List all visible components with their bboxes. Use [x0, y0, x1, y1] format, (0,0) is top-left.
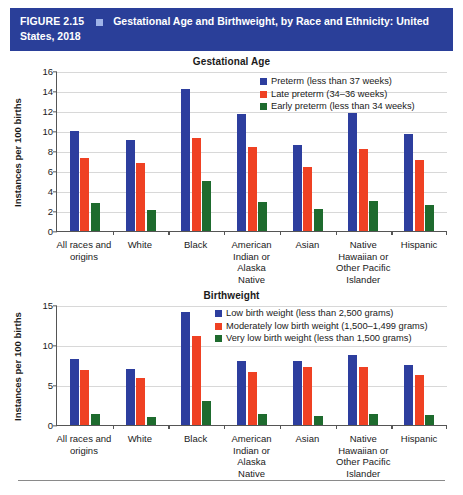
y-axis-label-0: Instances per 100 births: [12, 98, 23, 207]
bar: [404, 365, 413, 425]
x-axis-category-label: Hispanic: [391, 428, 447, 479]
legend-swatch-icon: [215, 335, 222, 342]
x-axis-labels-1: All races and originsWhiteBlackAmerican …: [56, 428, 447, 479]
y-axis-tick-mark: [53, 425, 57, 426]
legend-item: Early preterm (less than 34 weeks): [260, 101, 415, 113]
bar-group: [57, 306, 113, 425]
bar: [248, 147, 257, 231]
bar: [359, 149, 368, 231]
legend-label: Low birth weight (less than 2,500 grams): [226, 308, 393, 320]
x-axis-category-label: All races and origins: [56, 234, 112, 285]
bar: [314, 209, 323, 231]
legend-swatch-icon: [215, 310, 222, 317]
bar: [348, 113, 357, 231]
bar: [192, 138, 201, 231]
bar: [303, 167, 312, 231]
bar: [314, 416, 323, 425]
bar-group: [113, 306, 169, 425]
legend-item: Moderately low birth weight (1,500–1,499…: [215, 321, 428, 333]
legend-item: Very low birth weight (less than 1,500 g…: [215, 333, 428, 345]
legend-item: Preterm (less than 37 weeks): [260, 76, 415, 88]
y-axis-tick-label: 6: [31, 167, 53, 177]
y-axis-tick-label: 14: [31, 87, 53, 97]
y-axis-tick-label: 4: [31, 187, 53, 197]
bar: [248, 372, 257, 425]
chart-panel-birthweight: Birthweight Instances per 100 births 051…: [10, 290, 453, 484]
legend-item: Late preterm (34–36 weeks): [260, 89, 415, 101]
bar: [136, 378, 145, 425]
legend-1: Low birth weight (less than 2,500 grams)…: [215, 308, 428, 346]
legend-swatch-icon: [260, 103, 267, 110]
bar: [91, 203, 100, 231]
legend-swatch-icon: [260, 78, 267, 85]
x-axis-category-label: Black: [168, 234, 224, 285]
bar: [369, 201, 378, 231]
x-axis-category-label: Asian: [279, 428, 335, 479]
bar: [415, 160, 424, 231]
bar: [359, 367, 368, 425]
bar: [425, 415, 434, 425]
x-axis-category-label: Black: [168, 428, 224, 479]
footer-divider: [18, 480, 445, 481]
plot-area-1: Instances per 100 births 051015 All race…: [10, 304, 453, 484]
x-axis-category-label: American Indian or Alaska Native: [224, 234, 280, 285]
y-axis-tick-label: 2: [31, 207, 53, 217]
bar: [258, 414, 267, 425]
y-axis-tick-label: 8: [31, 147, 53, 157]
legend-item: Low birth weight (less than 2,500 grams): [215, 308, 428, 320]
x-axis-category-label: Hispanic: [391, 234, 447, 285]
y-axis-tick-label: 16: [31, 67, 53, 77]
y-axis-tick-label: 12: [31, 107, 53, 117]
x-axis-category-label: Native Hawaiian or Other Pacific Islande…: [335, 234, 391, 285]
bar: [192, 336, 201, 425]
x-axis-category-label: Native Hawaiian or Other Pacific Islande…: [335, 428, 391, 479]
bar: [237, 361, 246, 425]
header-square-icon: [96, 19, 103, 26]
chart-title-0: Gestational Age: [10, 56, 453, 70]
bar: [202, 181, 211, 231]
x-axis-labels-0: All races and originsWhiteBlackAmerican …: [56, 234, 447, 285]
bar: [293, 361, 302, 425]
bar-group: [57, 72, 113, 231]
legend-0: Preterm (less than 37 weeks)Late preterm…: [260, 76, 415, 114]
legend-label: Moderately low birth weight (1,500–1,499…: [226, 321, 428, 333]
figure-header: FIGURE 2.15Gestational Age and Birthweig…: [10, 8, 453, 51]
x-axis-category-label: Asian: [279, 234, 335, 285]
bar: [293, 145, 302, 231]
bar: [147, 210, 156, 231]
x-axis-category-label: American Indian or Alaska Native: [224, 428, 280, 479]
legend-label: Early preterm (less than 34 weeks): [271, 101, 415, 113]
bar: [80, 158, 89, 231]
y-axis-tick-label: 0: [31, 227, 53, 237]
bar: [202, 401, 211, 425]
y-axis-tick-label: 5: [31, 381, 53, 391]
y-axis-label-1: Instances per 100 births: [12, 312, 23, 421]
bar: [258, 202, 267, 231]
x-axis-category-label: All races and origins: [56, 428, 112, 479]
figure-number: FIGURE 2.15: [20, 15, 84, 27]
bar: [147, 417, 156, 425]
legend-label: Very low birth weight (less than 1,500 g…: [226, 333, 412, 345]
legend-label: Preterm (less than 37 weeks): [271, 76, 392, 88]
bar: [237, 114, 246, 231]
bar-group: [113, 72, 169, 231]
bar: [369, 414, 378, 425]
x-axis-category-label: White: [112, 428, 168, 479]
chart-title-1: Birthweight: [10, 290, 453, 304]
y-axis-tick-label: 15: [31, 301, 53, 311]
x-axis-category-label: White: [112, 234, 168, 285]
legend-swatch-icon: [260, 91, 267, 98]
y-axis-tick-label: 0: [31, 421, 53, 431]
bar: [70, 131, 79, 231]
bar: [415, 375, 424, 425]
chart-panel-gestational-age: Gestational Age Instances per 100 births…: [10, 56, 453, 285]
bar: [80, 370, 89, 425]
bar: [126, 369, 135, 425]
legend-label: Late preterm (34–36 weeks): [271, 89, 387, 101]
bar: [181, 312, 190, 425]
figure-page: FIGURE 2.15Gestational Age and Birthweig…: [0, 0, 463, 495]
legend-swatch-icon: [215, 323, 222, 330]
bar: [136, 163, 145, 231]
bar: [404, 134, 413, 231]
bar: [425, 205, 434, 231]
